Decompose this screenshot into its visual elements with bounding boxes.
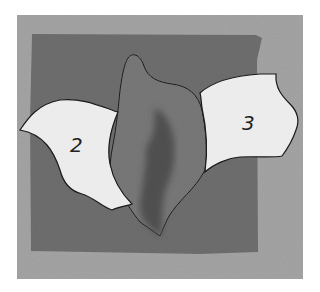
photo-canvas: 2 3 xyxy=(0,0,320,292)
piece-3-label: 3 xyxy=(242,111,255,135)
piece-2-label: 2 xyxy=(70,133,83,157)
applique-photo: 2 3 xyxy=(0,0,320,292)
